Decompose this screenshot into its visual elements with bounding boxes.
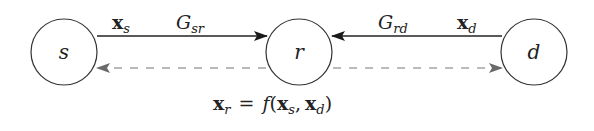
relay-diagram: s r d xs Gsr Grd xd xr=f(xs,xd) [0, 0, 594, 131]
gain-gsr-base: G [176, 11, 191, 33]
gain-grd-label: Grd [378, 11, 408, 36]
eq-comma: , [295, 92, 301, 114]
eq-close-paren: ) [325, 92, 332, 114]
gain-gsr-sub: sr [191, 21, 205, 36]
eq-open-paren: ( [270, 92, 277, 114]
gain-grd-sub: rd [393, 21, 408, 36]
eq-arg2-base: x [305, 92, 317, 114]
relay-equation: xr=f(xs,xd) [213, 92, 332, 117]
eq-lhs-base: x [213, 92, 225, 114]
gain-gsr-label: Gsr [176, 11, 205, 36]
eq-arg1-base: x [277, 92, 289, 114]
eq-lhs-sub: r [224, 102, 231, 117]
node-s-label: s [59, 40, 69, 64]
signal-xd-base: x [457, 11, 469, 33]
eq-arg2-sub: d [316, 102, 324, 117]
signal-xs-sub: s [123, 21, 130, 36]
signal-xs-base: x [112, 11, 124, 33]
node-r-label: r [294, 40, 305, 64]
signal-xs-label: xs [112, 11, 130, 36]
gain-grd-base: G [378, 11, 393, 33]
node-d-label: d [528, 40, 541, 64]
signal-xd-sub: d [468, 21, 476, 36]
relay-diagram-svg: s r d xs Gsr Grd xd xr=f(xs,xd) [0, 0, 594, 131]
signal-xd-label: xd [457, 11, 477, 36]
eq-equals: = [239, 92, 255, 114]
